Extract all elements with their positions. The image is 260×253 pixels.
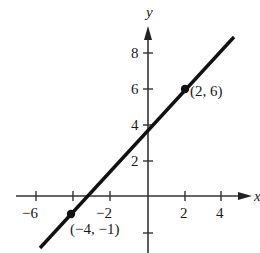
x-axis-label: x	[253, 188, 260, 204]
x-tick-label-4: 4	[216, 205, 224, 221]
point-2-6-marker	[181, 85, 189, 93]
point-neg4-neg1-marker	[67, 210, 75, 218]
y-tick-label-8: 8	[131, 45, 139, 61]
y-tick-label-2: 2	[131, 153, 139, 169]
x-tick-label-neg2: −2	[96, 205, 112, 221]
chart-canvas: x −6 −2 2 4 y 8 6 4 2 (2, 6) (−4, −1)	[0, 0, 260, 253]
y-tick-label-4: 4	[131, 117, 139, 133]
x-axis-arrow-icon	[238, 192, 252, 200]
x-tick-label-2: 2	[180, 205, 188, 221]
x-tick-label-neg6: −6	[22, 205, 38, 221]
x-axis: x −6 −2 2 4	[16, 188, 260, 221]
y-axis-arrow-icon	[144, 26, 152, 40]
y-axis-label: y	[144, 4, 153, 20]
y-tick-label-6: 6	[131, 81, 139, 97]
point-2-6-label: (2, 6)	[190, 83, 223, 100]
point-neg4-neg1-label: (−4, −1)	[70, 221, 119, 238]
